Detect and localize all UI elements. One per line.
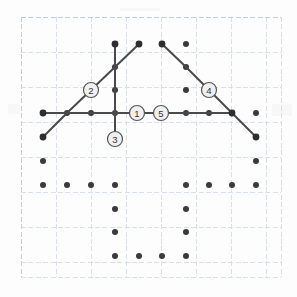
lattice-dot <box>253 182 259 188</box>
figure-vertex <box>40 134 47 141</box>
figure-canvas: 12345 <box>0 0 297 297</box>
callout-label: 3 <box>112 134 117 145</box>
figure-vertex <box>253 134 260 141</box>
callout-1[interactable]: 1 <box>130 106 145 121</box>
lattice-dot <box>183 229 189 235</box>
callout-label: 5 <box>158 108 163 119</box>
lattice-dot <box>40 158 46 164</box>
figure-vertex <box>112 41 119 48</box>
lattice-dot <box>112 253 118 259</box>
figure-vertex <box>40 110 47 117</box>
figure-vertex <box>136 41 143 48</box>
lattice-dot <box>112 182 118 188</box>
callout-label: 1 <box>134 108 139 119</box>
lattice-dot <box>253 158 259 164</box>
lattice-dot <box>229 182 235 188</box>
callout-2[interactable]: 2 <box>84 83 99 98</box>
callout-5[interactable]: 5 <box>154 106 169 121</box>
lattice-dot <box>206 182 212 188</box>
lattice-dot <box>64 182 70 188</box>
lattice-dot <box>88 182 94 188</box>
lattice-dot <box>112 206 118 212</box>
callout-3[interactable]: 3 <box>108 132 123 147</box>
figure-vertex <box>229 110 236 117</box>
polyline-figure: 12345 <box>0 0 297 297</box>
callout-4[interactable]: 4 <box>202 83 217 98</box>
lattice-dot <box>253 110 259 116</box>
lattice-dot <box>183 87 189 93</box>
lattice-dot <box>112 229 118 235</box>
lattice-dot <box>183 41 189 47</box>
callout-label: 4 <box>206 85 211 96</box>
lattice-dot <box>136 253 142 259</box>
lattice-dot <box>183 206 189 212</box>
lattice-dot <box>183 253 189 259</box>
callout-label: 2 <box>88 85 93 96</box>
lattice-dot <box>40 182 46 188</box>
figure-vertex <box>159 41 166 48</box>
lattice-dot <box>183 182 189 188</box>
lattice-dot <box>159 253 165 259</box>
